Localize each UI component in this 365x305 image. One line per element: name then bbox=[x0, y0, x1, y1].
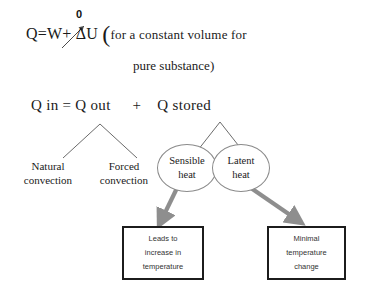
q-symbol: Q bbox=[26, 25, 38, 42]
latent-outcome-box: Minimal temperature change bbox=[267, 226, 346, 280]
sensible-heat-line2: heat bbox=[178, 168, 196, 182]
w-symbol: W bbox=[47, 25, 62, 42]
sensible-outcome-line2: increase in bbox=[145, 246, 181, 260]
latent-heat-line2: heat bbox=[232, 168, 250, 182]
equation-condition-line2: pure substance) bbox=[133, 58, 214, 74]
convection-branch-connector bbox=[63, 124, 137, 158]
w-term: W bbox=[47, 25, 62, 43]
latent-outcome-line3: change bbox=[294, 260, 319, 274]
latent-to-outcome-arrow bbox=[248, 186, 296, 219]
balance-plus: + bbox=[133, 97, 142, 113]
q-in-term: Q in bbox=[31, 97, 58, 113]
q-stored-term: Q stored bbox=[157, 97, 211, 113]
natural-convection-line2: convection bbox=[8, 174, 88, 188]
forced-convection-line1: Forced bbox=[84, 160, 164, 174]
forced-convection-label: Forced convection bbox=[84, 160, 164, 188]
latent-heat-node: Latent heat bbox=[212, 144, 270, 192]
latent-heat-line1: Latent bbox=[228, 154, 255, 168]
energy-balance-line: Q in = Q out+Q stored bbox=[31, 97, 211, 114]
main-equation: Q=W+ ΔU (for a constant volume for bbox=[26, 25, 247, 43]
latent-outcome-line1: Minimal bbox=[294, 232, 320, 246]
delta-u-symbol: ΔU bbox=[76, 25, 98, 42]
sensible-to-outcome-arrow bbox=[162, 186, 178, 219]
open-paren: ( bbox=[102, 21, 110, 47]
sensible-outcome-line3: temperature bbox=[143, 260, 183, 274]
natural-convection-label: Natural convection bbox=[8, 160, 88, 188]
diagram-canvas: 0 Q=W+ ΔU (for a constant volume for pur… bbox=[0, 0, 365, 305]
w-zero-annotation: 0 bbox=[76, 8, 82, 20]
forced-convection-line2: convection bbox=[84, 174, 164, 188]
equation-plus: + bbox=[62, 25, 71, 42]
latent-outcome-line2: temperature bbox=[286, 246, 326, 260]
q-out-term: Q out bbox=[75, 97, 110, 113]
sensible-outcome-line1: Leads to bbox=[149, 232, 178, 246]
equation-condition-line1: for a constant volume for bbox=[110, 27, 246, 42]
balance-equals: = bbox=[63, 97, 72, 113]
sensible-heat-line1: Sensible bbox=[169, 154, 205, 168]
equation-equals: = bbox=[38, 25, 47, 42]
sensible-outcome-box: Leads to increase in temperature bbox=[122, 226, 204, 280]
sensible-heat-node: Sensible heat bbox=[157, 144, 217, 192]
natural-convection-line1: Natural bbox=[8, 160, 88, 174]
